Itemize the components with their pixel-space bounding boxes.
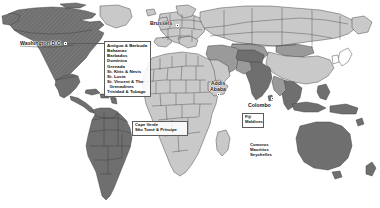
city-label-brussels: Brussels <box>150 20 172 26</box>
callout-line: Seychelles <box>250 153 280 158</box>
city-marker-colombo <box>271 97 274 100</box>
world-map-figure: Washington D.C. Brussels Addis Ababa Col… <box>0 0 380 208</box>
callout-west-africa-islands: Cape Verde São Tomé & Príncipe <box>132 121 188 136</box>
callout-line: Trinidad & Tobago <box>107 89 148 94</box>
map-annotation-overlay: Washington D.C. Brussels Addis Ababa Col… <box>0 0 380 208</box>
callout-line: São Tomé & Príncipe <box>135 128 185 133</box>
city-marker-washington-dc <box>64 42 67 45</box>
leader-line-washington <box>66 43 104 44</box>
callout-line: Maldives <box>245 120 261 125</box>
city-label-washington-dc: Washington D.C. <box>20 40 62 46</box>
callout-fiji-maldives: Fiji Maldives <box>242 113 264 128</box>
city-marker-addis-ababa <box>217 93 220 96</box>
callout-indian-ocean-islands: Comoros Mauritius Seychelles <box>248 142 282 160</box>
callout-caribbean: Antigua & Barbuda Bahamas Barbados Domin… <box>104 41 151 97</box>
city-label-colombo: Colombo <box>248 102 271 108</box>
city-label-addis-ababa: Addis Ababa <box>207 80 229 92</box>
city-marker-brussels <box>176 24 179 27</box>
